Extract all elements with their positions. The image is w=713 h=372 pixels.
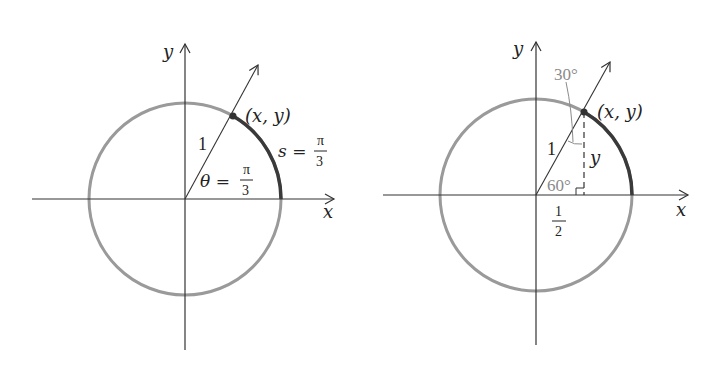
unit-circle-diagrams: y x (x, y) 1 θ = π 3 s = π 3 y x (x, y) …	[0, 0, 713, 372]
left-figure: y x (x, y) 1 θ = π 3 s = π 3	[32, 41, 334, 350]
y-axis-label: y	[512, 38, 524, 59]
right-angle-marker	[576, 188, 584, 195]
base-num: 1	[555, 204, 562, 219]
theta-num: π	[243, 162, 250, 177]
point-label: (x, y)	[597, 101, 643, 122]
angle-60-label: 60°	[547, 176, 571, 195]
angle-30-leader	[566, 82, 573, 142]
theta-lhs: θ =	[200, 171, 230, 191]
base-den: 2	[555, 224, 562, 239]
theta-den: 3	[242, 183, 249, 198]
radius-label: 1	[198, 134, 207, 154]
radius-label: 1	[547, 139, 556, 159]
arc-den: 3	[316, 154, 323, 169]
angle-30-label: 30°	[554, 65, 578, 84]
arc-lhs: s =	[278, 141, 306, 161]
point-xy	[581, 108, 588, 115]
y-axis-label: y	[162, 41, 174, 62]
x-axis-label: x	[323, 201, 333, 222]
arc-num: π	[317, 133, 324, 148]
point-xy	[230, 112, 237, 119]
right-figure: y x (x, y) 1 y 30° 60° 1 2	[383, 38, 688, 345]
point-label: (x, y)	[245, 105, 291, 126]
height-label: y	[589, 147, 601, 168]
x-axis-label: x	[676, 199, 686, 220]
arc-s	[233, 116, 281, 199]
angle-30-arc	[568, 141, 582, 144]
